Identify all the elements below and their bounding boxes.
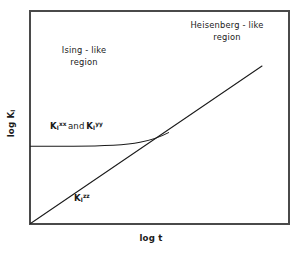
x-axis-title: log t	[0, 232, 302, 244]
kzz-base: K	[74, 193, 81, 203]
annotation-ising-line2: region	[36, 56, 132, 68]
kzz-superscript: zz	[83, 193, 90, 199]
annotation-heisenberg-region: Heisenberg - like region	[168, 19, 286, 43]
kxx-term: Klxx	[50, 120, 66, 133]
kyy-term: Klyy	[86, 120, 102, 133]
y-axis-title: log Kl	[5, 90, 18, 156]
series-label-kzz: Klzz	[74, 192, 90, 205]
kxx-base: K	[50, 121, 57, 131]
y-axis-title-main: log K	[6, 112, 16, 138]
annotation-heisenberg-line1: Heisenberg - like	[168, 19, 286, 31]
kyy-base: K	[86, 121, 93, 131]
series-label-kxx-kyy: KlxxandKlyy	[50, 120, 103, 133]
kyy-superscript: yy	[95, 121, 102, 127]
chart-figure: Ising - like region Heisenberg - like re…	[0, 0, 302, 260]
annotation-ising-region: Ising - like region	[36, 44, 132, 68]
annotation-ising-line1: Ising - like	[36, 44, 132, 56]
y-axis-title-subscript: l	[10, 109, 16, 111]
annotation-heisenberg-line2: region	[168, 31, 286, 43]
kzz-term: Klzz	[74, 192, 90, 205]
curve-label-conjunction: and	[66, 121, 86, 131]
